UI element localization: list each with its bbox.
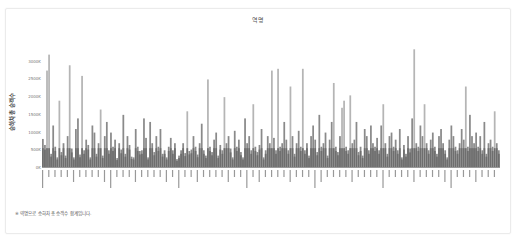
x-tick-label: [457, 170, 458, 177]
x-tick-label: [382, 170, 383, 188]
x-tick-label: [327, 170, 328, 177]
x-tick-label: [444, 170, 445, 182]
x-tick-label: [54, 170, 55, 177]
x-tick-label: [463, 170, 464, 177]
x-tick-label: [42, 170, 43, 188]
x-tick-label: [420, 170, 421, 177]
x-tick-label: [413, 170, 414, 182]
x-tick-label: [172, 170, 173, 177]
x-tick-label: [345, 170, 346, 177]
y-tick-label: 1000K: [19, 130, 41, 135]
x-tick-label: [228, 170, 229, 182]
y-axis-label: 승하차 총 승객수: [8, 93, 16, 132]
x-tick-label: [116, 170, 117, 177]
x-tick-label: [351, 170, 352, 182]
x-tick-label: [438, 170, 439, 177]
x-tick-label: [450, 170, 451, 188]
chart-title: 역명: [0, 15, 516, 24]
x-tick-label: [364, 170, 365, 177]
x-tick-label: [401, 170, 402, 177]
bar-series: [42, 44, 500, 168]
x-tick-label: [197, 170, 198, 182]
y-tick-label: 2500K: [19, 76, 41, 81]
chart-footnote: ※ 역명으로 승하차 총 승객수 합계입니다.: [15, 210, 91, 216]
x-tick-label: [61, 170, 62, 177]
x-tick-label: [178, 170, 179, 188]
x-tick-label: [160, 170, 161, 177]
x-tick-label: [234, 170, 235, 177]
x-tick-label: [314, 170, 315, 188]
x-tick-label: [407, 170, 408, 177]
x-tick-label: [98, 170, 99, 177]
x-tick-label: [469, 170, 470, 177]
x-tick-label: [184, 170, 185, 177]
x-tick-label: [110, 170, 111, 188]
x-tick-label: [153, 170, 154, 177]
x-tick-label: [290, 170, 291, 182]
x-tick-label: [67, 170, 68, 177]
x-tick-label: [79, 170, 80, 177]
x-tick-label: [191, 170, 192, 177]
y-tick-label: 500K: [19, 147, 41, 152]
x-tick-label: [488, 170, 489, 177]
x-tick-label: [333, 170, 334, 177]
y-tick-label: 0K: [19, 165, 41, 170]
y-tick-label: 3000K: [19, 59, 41, 64]
x-tick-label: [240, 170, 241, 177]
x-tick-label: [141, 170, 142, 177]
x-tick-label: [358, 170, 359, 177]
x-tick-label: [376, 170, 377, 177]
x-axis-labels: [42, 169, 500, 199]
x-tick-label: [203, 170, 204, 177]
x-tick-label: [252, 170, 253, 177]
x-tick-label: [432, 170, 433, 177]
x-tick-label: [265, 170, 266, 177]
x-tick-label: [339, 170, 340, 177]
plot-area: [42, 44, 500, 168]
y-tick-label: 1500K: [19, 112, 41, 117]
x-tick-label: [135, 170, 136, 182]
x-tick-label: [475, 170, 476, 182]
x-tick-label: [209, 170, 210, 177]
x-tick-label: [92, 170, 93, 177]
x-tick-label: [277, 170, 278, 177]
x-axis-line: [42, 167, 500, 168]
x-tick-label: [48, 170, 49, 177]
x-tick-label: [259, 170, 260, 182]
x-tick-label: [73, 170, 74, 182]
x-tick-label: [296, 170, 297, 177]
x-tick-label: [426, 170, 427, 177]
x-tick-label: [85, 170, 86, 177]
x-tick-label: [308, 170, 309, 177]
x-tick-label: [221, 170, 222, 177]
x-tick-label: [494, 170, 495, 177]
y-tick-label: 2000K: [19, 94, 41, 99]
x-tick-label: [302, 170, 303, 177]
x-tick-label: [129, 170, 130, 177]
x-tick-label: [283, 170, 284, 177]
x-tick-label: [166, 170, 167, 182]
x-tick-label: [215, 170, 216, 177]
x-tick-label: [104, 170, 105, 182]
x-tick-label: [246, 170, 247, 188]
x-tick-label: [122, 170, 123, 177]
x-tick-label: [389, 170, 390, 177]
x-tick-label: [147, 170, 148, 177]
x-tick-label: [395, 170, 396, 177]
x-tick-label: [370, 170, 371, 177]
x-tick-label: [481, 170, 482, 177]
x-tick-label: [271, 170, 272, 177]
x-tick-label: [321, 170, 322, 182]
